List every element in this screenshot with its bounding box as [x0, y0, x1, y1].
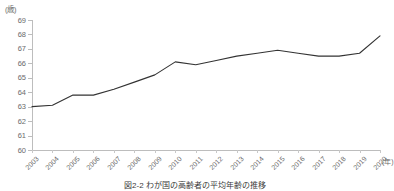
x-tick-label: 2016 [290, 155, 306, 171]
x-tick-mark [73, 150, 74, 153]
x-tick-label: 2008 [126, 155, 142, 171]
y-tick-label: 65 [18, 75, 26, 83]
x-tick-mark [360, 150, 361, 153]
x-tick-mark [175, 150, 176, 153]
y-tick-label: 66 [18, 60, 26, 68]
plot-area: 60616263646566676869 2003200420052006200… [32, 20, 380, 150]
x-tick-mark [196, 150, 197, 153]
x-tick-mark [52, 150, 53, 153]
x-tick-mark [237, 150, 238, 153]
y-tick-label: 64 [18, 89, 26, 97]
x-tick-mark [298, 150, 299, 153]
x-tick-mark [339, 150, 340, 153]
x-tick-label: 2006 [85, 155, 101, 171]
x-tick-label: 2012 [208, 155, 224, 171]
y-tick-label: 69 [18, 17, 26, 25]
x-tick-label: 2009 [147, 155, 163, 171]
x-tick-mark [278, 150, 279, 153]
x-tick-mark [319, 150, 320, 153]
x-tick-label: 2019 [352, 155, 368, 171]
x-tick-label: 2011 [188, 155, 204, 171]
y-tick-label: 60 [18, 147, 26, 155]
x-tick-label: 2010 [167, 155, 183, 171]
x-axis-unit-label: (年) [382, 158, 394, 165]
x-tick-mark [155, 150, 156, 153]
x-tick-mark [32, 150, 33, 153]
x-tick-mark [216, 150, 217, 153]
y-tick-label: 67 [18, 46, 26, 54]
x-tick-mark [114, 150, 115, 153]
x-tick-mark [93, 150, 94, 153]
y-tick-label: 62 [18, 118, 26, 126]
x-tick-mark [380, 150, 381, 153]
x-tick-label: 2003 [24, 155, 40, 171]
x-tick-mark [134, 150, 135, 153]
figure-caption: 図2-2 わが国の高齢者の平均年齢の推移 [0, 181, 390, 191]
x-tick-label: 2013 [229, 155, 245, 171]
x-tick-mark [257, 150, 258, 153]
x-tick-label: 2018 [331, 155, 347, 171]
x-tick-label: 2005 [65, 155, 81, 171]
y-tick-label: 63 [18, 103, 26, 111]
x-tick-label: 2007 [106, 155, 122, 171]
y-tick-label: 61 [18, 132, 26, 140]
x-tick-label: 2014 [249, 155, 265, 171]
x-tick-label: 2015 [270, 155, 286, 171]
y-tick-label: 68 [18, 31, 26, 39]
x-tick-label: 2017 [311, 155, 327, 171]
y-tick: 60 [32, 150, 380, 151]
series-polyline [32, 36, 380, 107]
x-tick-label: 2004 [44, 155, 60, 171]
line-series [32, 20, 380, 150]
y-axis-unit-label: (歳) [5, 3, 16, 14]
